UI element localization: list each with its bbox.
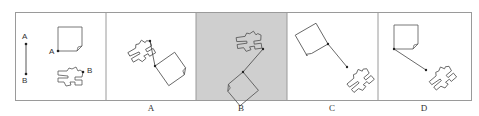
option-label-c[interactable]: C [322,103,342,113]
segment-label-a: A [22,32,27,41]
puzzle-figure [0,0,479,116]
segment-label-b: B [22,76,27,85]
puzzle-point-label: B [87,66,92,75]
option-label-d[interactable]: D [414,103,434,113]
option-label-a[interactable]: A [141,103,161,113]
square-point-label: A [49,47,54,56]
option-label-b[interactable]: B [231,103,251,113]
option-b-highlight [196,13,287,100]
